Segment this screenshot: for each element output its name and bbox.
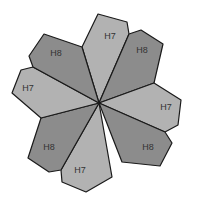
petal-diagram: H7H8H7H8H7H8H7H8	[0, 0, 197, 204]
petal-label: H7	[22, 83, 34, 93]
petal-label: H8	[142, 142, 154, 152]
petal-label: H7	[74, 165, 86, 175]
petal-label: H8	[136, 45, 148, 55]
petal-label: H8	[50, 48, 62, 58]
petal-label: H8	[43, 142, 55, 152]
petal-label: H7	[160, 102, 172, 112]
petal-label: H7	[104, 31, 116, 41]
